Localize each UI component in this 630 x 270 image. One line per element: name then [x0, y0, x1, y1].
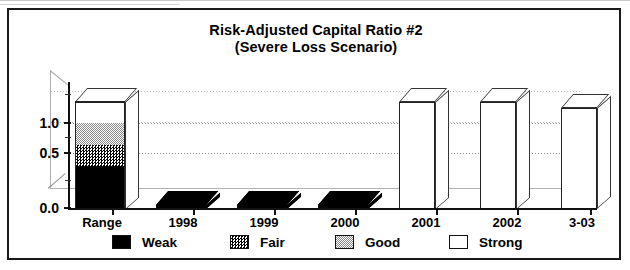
bar-2001-face — [399, 102, 435, 210]
x-axis-label-range: Range — [67, 216, 137, 230]
bar-range-cap-line — [75, 101, 125, 102]
legend-label-good: Good — [365, 234, 400, 251]
bar-2001[interactable] — [399, 102, 435, 210]
bar-range-side-face — [125, 89, 139, 209]
bar-range[interactable] — [75, 102, 125, 210]
y-axis-label-1.0: 1.0 — [17, 116, 59, 130]
bar-range-segment-weak — [75, 166, 125, 209]
y-axis-line — [68, 82, 70, 210]
chart-figure-frame: Risk-Adjusted Capital Ratio #2 (Severe L… — [7, 8, 621, 260]
bar-2002-face — [480, 102, 516, 210]
legend-swatch-fair — [230, 235, 249, 249]
bar-range-segment-good — [75, 123, 125, 145]
bar-2002[interactable] — [480, 102, 516, 210]
x-axis-label-2000: 2000 — [310, 216, 380, 230]
bar-3-03-side-face — [597, 95, 611, 209]
legend-swatch-strong — [449, 235, 468, 249]
legend-label-fair: Fair — [260, 234, 285, 251]
y-axis-label-0.5: 0.5 — [17, 146, 59, 160]
bar-2002-side-face — [516, 89, 530, 209]
bar-2001-side-face — [435, 89, 449, 209]
x-axis-label-1999: 1999 — [229, 216, 299, 230]
x-axis-label-2002: 2002 — [472, 216, 542, 230]
plot-depth-edge-top — [50, 70, 70, 87]
bar-3-03-face — [561, 108, 597, 209]
scan-edge-line-top — [0, 0, 630, 1]
scan-edge-line-secondary — [0, 4, 180, 5]
plot-area: 1.0 0.5 0.0 — [9, 10, 623, 262]
chart-legend: Weak Fair Good Strong — [9, 234, 623, 256]
y-minor-tick-0.75 — [65, 137, 71, 138]
legend-label-strong: Strong — [479, 234, 523, 251]
x-axis-label-1998: 1998 — [148, 216, 218, 230]
y-axis-label-0.0: 0.0 — [17, 201, 59, 215]
bar-range-segment-fair — [75, 145, 125, 167]
x-axis-label-3-03: 3-03 — [547, 216, 617, 230]
y-tick-1.0 — [64, 122, 71, 124]
legend-swatch-good — [335, 235, 354, 249]
legend-label-weak: Weak — [142, 234, 177, 251]
x-axis-label-2001: 2001 — [391, 216, 461, 230]
bar-3-03[interactable] — [561, 108, 597, 209]
bar-range-segment-strong — [75, 102, 125, 124]
legend-swatch-weak — [112, 235, 131, 249]
y-minor-tick-0.25 — [65, 180, 71, 181]
y-tick-0.5 — [64, 152, 71, 154]
y-minor-tick-1.25 — [65, 94, 71, 95]
